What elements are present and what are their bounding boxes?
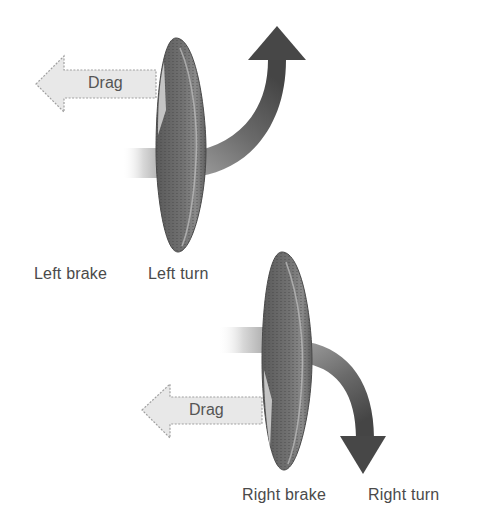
right-canopy-icon [262,252,312,470]
drag-label-bottom: Drag [189,401,224,419]
left-canopy-icon [156,38,206,252]
right-turn-arrow-icon [308,342,386,474]
right-brake-label: Right brake [242,486,326,504]
right-turn-label: Right turn [368,486,439,504]
drag-label-top: Drag [88,74,123,92]
top-panel-left-turn [36,26,306,252]
airflow-band-bottom [218,327,268,353]
left-brake-label: Left brake [34,265,107,283]
left-turn-arrow-icon [200,26,306,176]
left-turn-label: Left turn [148,265,209,283]
bottom-panel-right-turn [142,252,386,474]
